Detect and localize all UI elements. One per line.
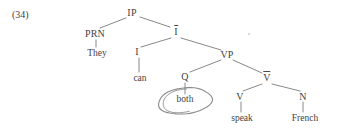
node-q: Q bbox=[181, 72, 188, 82]
tree-edge-ibar-vp bbox=[181, 38, 221, 50]
tree-edge-ibar-i bbox=[141, 38, 171, 47]
tree-branches bbox=[0, 0, 337, 131]
node-prn: PRN bbox=[85, 29, 105, 39]
node-label-text: V bbox=[263, 72, 270, 83]
terminal-both: both bbox=[177, 94, 194, 104]
node-vp: VP bbox=[220, 50, 233, 60]
tree-edge-vbar-n bbox=[272, 84, 300, 91]
node-vbar: V bbox=[263, 73, 270, 83]
speck-1 bbox=[248, 33, 250, 35]
bar-level-node: I bbox=[174, 27, 178, 37]
tree-edge-vbar-v bbox=[243, 84, 262, 91]
node-ibar: I bbox=[174, 27, 178, 37]
tree-edge-ip-prn bbox=[100, 18, 126, 28]
tree-edge-ip-ibar bbox=[140, 17, 170, 27]
node-ip: IP bbox=[127, 8, 136, 18]
terminal-can: can bbox=[133, 73, 146, 83]
x-bar-overbar bbox=[174, 25, 178, 26]
syntax-tree-figure: (34) IPPRNTheyIIcanVPQbothVVspeakNFrench bbox=[0, 0, 337, 131]
node-i: I bbox=[135, 47, 139, 57]
tree-edge-vp-vbar bbox=[233, 60, 262, 73]
terminal-speak: speak bbox=[231, 113, 253, 123]
terminal-french: French bbox=[292, 113, 318, 123]
node-v: V bbox=[236, 92, 243, 102]
tree-edge-vp-q bbox=[190, 60, 221, 72]
node-n: N bbox=[299, 92, 306, 102]
node-label-text: I bbox=[174, 26, 178, 37]
bar-level-node: V bbox=[263, 73, 270, 83]
terminal-they: They bbox=[87, 48, 107, 58]
x-bar-overbar bbox=[263, 71, 270, 72]
